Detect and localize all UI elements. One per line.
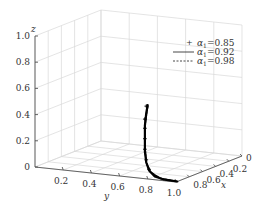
y-tick-label: 0.4 bbox=[82, 179, 97, 189]
left-wall-gridline-horizontal bbox=[35, 36, 101, 62]
y-tick-label: 1.0 bbox=[167, 188, 182, 198]
series-3-line bbox=[145, 106, 177, 181]
floor-gridline-y bbox=[63, 144, 129, 170]
x-tick-label: 0.8 bbox=[193, 180, 208, 190]
floor-gridline-x bbox=[61, 157, 202, 172]
z-tick-label: 0.6 bbox=[16, 83, 31, 93]
right-wall-gridline-horizontal bbox=[101, 115, 242, 130]
floor-gridline-x bbox=[88, 146, 229, 161]
x-tick-label: 0.6 bbox=[206, 175, 221, 185]
y-axis-label: y bbox=[103, 191, 110, 201]
z-tick-label: 0.8 bbox=[16, 57, 31, 67]
z-tick-label: 0.4 bbox=[16, 110, 31, 120]
x-tick-label: 0.4 bbox=[220, 169, 235, 179]
legend-marker-plus: + bbox=[186, 38, 193, 47]
legend: + α1=0.85 α1=0.92 α1=0.98 bbox=[173, 38, 235, 67]
left-wall-gridline-horizontal bbox=[35, 10, 101, 36]
grid bbox=[35, 10, 242, 182]
right-wall-gridline-horizontal bbox=[101, 89, 242, 104]
x-tick-label: 0 bbox=[246, 153, 252, 163]
y-tick-label: 0.2 bbox=[54, 176, 68, 186]
z-axis-label: z bbox=[30, 24, 36, 34]
x-axis-label: x bbox=[221, 180, 226, 190]
3d-line-chart: 00.20.40.60.81.00.20.40.60.81.000.20.40.… bbox=[0, 0, 262, 214]
floor-gridline-y bbox=[148, 153, 214, 179]
y-tick-label: 0.6 bbox=[110, 182, 125, 192]
x-tick-label: 0.2 bbox=[233, 164, 247, 174]
series bbox=[143, 104, 177, 181]
left-wall-gridline-horizontal bbox=[35, 141, 101, 167]
z-tick-label: 0 bbox=[24, 162, 30, 172]
y-tick-label: 0.8 bbox=[139, 185, 154, 195]
floor-gridline-y bbox=[120, 150, 186, 176]
right-wall-gridline-horizontal bbox=[101, 141, 242, 156]
z-tick-label: 0.2 bbox=[16, 136, 30, 146]
z-tick-label: 1.0 bbox=[16, 31, 31, 41]
left-wall-gridline-horizontal bbox=[35, 89, 101, 115]
legend-label: α1=0.98 bbox=[197, 56, 235, 67]
left-wall-gridline-horizontal bbox=[35, 115, 101, 141]
left-wall-gridline-horizontal bbox=[35, 62, 101, 88]
right-wall-gridline-horizontal bbox=[101, 10, 242, 25]
